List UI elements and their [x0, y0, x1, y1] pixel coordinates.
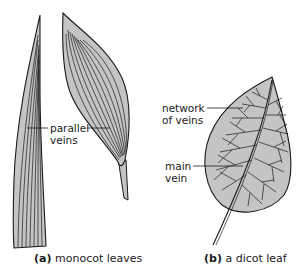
leaf-diagram — [0, 0, 307, 270]
caption-a: (a) monocot leaves — [34, 252, 142, 265]
caption-a-letter: (a) — [34, 252, 51, 265]
label-parallel-veins-line2: veins — [50, 134, 89, 146]
label-parallel-veins: parallel veins — [50, 122, 89, 146]
label-main-vein-line1: main — [165, 160, 191, 172]
caption-b: (b) a dicot leaf — [204, 252, 287, 265]
caption-a-text: monocot leaves — [55, 252, 142, 265]
label-main-vein: main vein — [165, 160, 191, 184]
monocot-leaf-blade — [13, 15, 46, 248]
caption-b-letter: (b) — [204, 252, 222, 265]
label-main-vein-line2: vein — [165, 172, 191, 184]
dicot-leaf — [205, 77, 291, 245]
label-network-line1: network — [162, 102, 205, 114]
caption-b-text: a dicot leaf — [225, 252, 286, 265]
label-network-of-veins: network of veins — [162, 102, 205, 126]
label-parallel-veins-line1: parallel — [50, 122, 89, 134]
label-network-line2: of veins — [162, 114, 205, 126]
monocot-leaf-lanceolate — [63, 13, 130, 200]
